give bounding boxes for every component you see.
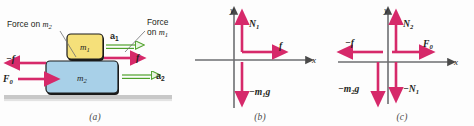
caption-force-on-m1-line2: on m1 <box>147 27 168 38</box>
panel-c-label: (c) <box>330 112 474 122</box>
panel-a-graphic: m2 m1 a1 f a2 −f F0 Force on m2 <box>0 0 190 126</box>
leader-line-m1 <box>125 31 145 52</box>
arrow-F0-label: F0 <box>422 38 433 50</box>
arrow-a2-label: a2 <box>156 71 165 82</box>
physics-figure: m2 m1 a1 f a2 −f F0 Force on m2 <box>0 0 474 126</box>
y-axis-label: y <box>383 5 388 15</box>
y-axis-label: y <box>229 5 234 15</box>
arrow-m1g-label: −m1g <box>249 86 271 98</box>
panel-a: m2 m1 a1 f a2 −f F0 Force on m2 <box>0 0 190 126</box>
panel-b: x y N1 f −m1g (b) <box>190 0 330 126</box>
ground-surface <box>4 95 172 100</box>
arrow-N2-label: N2 <box>402 18 414 30</box>
arrow-minus-f-label: −f <box>6 53 16 64</box>
caption-force-on-m1-line1: Force <box>147 17 169 27</box>
arrow-minus-N1-label: −N1 <box>403 83 419 95</box>
panel-a-label: (a) <box>0 112 190 122</box>
arrow-f-label: f <box>136 52 140 63</box>
panel-b-graphic: x y N1 f −m1g <box>190 0 330 126</box>
x-axis-label: x <box>453 57 458 67</box>
panel-c: x y N2 F0 −f −m2g −N1 (c) <box>330 0 474 126</box>
caption-force-on-m2: Force on m2 <box>7 19 52 30</box>
x-axis-label: x <box>311 55 316 65</box>
arrow-F0-label: F0 <box>2 73 13 85</box>
ground-shadow <box>4 100 172 102</box>
arrow-minus-f-label: −f <box>345 37 355 48</box>
arrow-a1-label: a1 <box>110 31 119 42</box>
arrow-N1-label: N1 <box>248 18 259 30</box>
panel-c-graphic: x y N2 F0 −f −m2g −N1 <box>330 0 474 126</box>
panel-b-label: (b) <box>190 112 330 122</box>
arrow-f-label: f <box>279 40 283 51</box>
arrow-m2g-label: −m2g <box>338 83 360 95</box>
